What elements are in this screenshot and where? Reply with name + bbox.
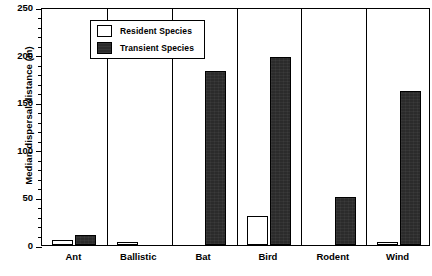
bar-ant-transient	[75, 235, 96, 245]
y-tick-minor	[38, 227, 42, 228]
y-tick-label: 50	[3, 192, 33, 203]
x-label-bird: Bird	[236, 251, 301, 262]
x-label-ballistic: Ballistic	[106, 251, 171, 262]
black-square-icon	[97, 42, 112, 54]
y-tick-major	[36, 247, 42, 248]
y-tick-minor	[38, 208, 42, 209]
x-label-rodent: Rodent	[300, 251, 365, 262]
bar-bird-resident	[247, 216, 268, 245]
x-label-bat: Bat	[171, 251, 236, 262]
bar-rodent-transient	[335, 197, 356, 245]
bar-ant-resident	[52, 240, 73, 245]
panel-divider	[237, 9, 238, 245]
chart-figure: Median dispersal distance (m) 0501001502…	[0, 0, 432, 276]
x-label-ant: Ant	[41, 251, 106, 262]
bar-wind-resident	[377, 242, 398, 245]
y-tick-major	[36, 199, 42, 200]
y-tick-minor	[38, 218, 42, 219]
legend-item-resident: Resident Species	[97, 25, 194, 37]
panel-divider	[301, 9, 302, 245]
y-tick-label: 100	[3, 145, 33, 156]
legend-label-transient: Transient Species	[120, 43, 194, 53]
y-tick-major	[36, 151, 42, 152]
y-tick-minor	[38, 18, 42, 19]
white-square-icon	[97, 25, 112, 37]
y-tick-label: 150	[3, 97, 33, 108]
panel-divider	[366, 9, 367, 245]
bar-ballistic-resident	[117, 242, 138, 245]
bar-bat-transient	[205, 71, 226, 245]
y-tick-major	[36, 9, 42, 10]
bar-wind-transient	[400, 91, 421, 245]
y-tick-minor	[38, 161, 42, 162]
y-tick-major	[36, 104, 42, 105]
y-tick-minor	[38, 66, 42, 67]
chart-legend: Resident Species Transient Species	[90, 20, 205, 59]
legend-label-resident: Resident Species	[120, 26, 192, 36]
y-tick-major	[36, 56, 42, 57]
x-label-wind: Wind	[365, 251, 430, 262]
y-tick-label: 250	[3, 2, 33, 13]
y-tick-minor	[38, 170, 42, 171]
y-tick-label: 0	[3, 240, 33, 251]
bar-bird-transient	[270, 57, 291, 245]
y-tick-minor	[38, 132, 42, 133]
y-tick-minor	[38, 75, 42, 76]
y-tick-minor	[38, 123, 42, 124]
y-tick-minor	[38, 113, 42, 114]
y-tick-minor	[38, 180, 42, 181]
legend-item-transient: Transient Species	[97, 42, 194, 54]
y-tick-minor	[38, 47, 42, 48]
y-tick-minor	[38, 237, 42, 238]
y-tick-minor	[38, 94, 42, 95]
y-tick-label: 200	[3, 50, 33, 61]
y-tick-minor	[38, 85, 42, 86]
y-tick-minor	[38, 189, 42, 190]
y-tick-minor	[38, 28, 42, 29]
y-tick-minor	[38, 142, 42, 143]
y-tick-minor	[38, 37, 42, 38]
plot-area: Resident Species Transient Species	[41, 8, 430, 246]
